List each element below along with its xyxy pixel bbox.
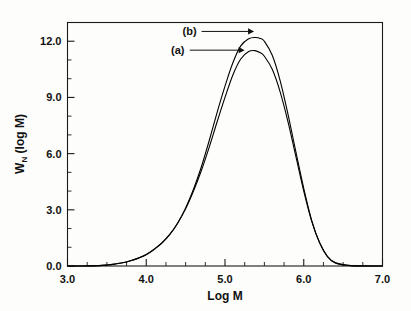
x-tick-label: 5.0 — [217, 273, 232, 285]
chart-figure: 3.04.05.06.07.0 0.03.06.09.012.0 (b)(a) … — [0, 0, 411, 311]
y-tick-label: 3.0 — [46, 204, 61, 216]
chart-canvas: 3.04.05.06.07.0 0.03.06.09.012.0 (b)(a) … — [0, 0, 411, 311]
y-tick-label: 12.0 — [40, 35, 61, 47]
y-axis-title-tail: (log M) — [13, 114, 27, 157]
y-axis-title-main: W — [13, 162, 27, 174]
x-tick-label: 7.0 — [375, 273, 390, 285]
y-axis-title: WN (log M) — [13, 114, 29, 174]
y-tick-label: 6.0 — [46, 148, 61, 160]
x-tick-label: 4.0 — [139, 273, 154, 285]
y-tick-label: 9.0 — [46, 91, 61, 103]
x-tick-label: 6.0 — [296, 273, 311, 285]
x-tick-label: 3.0 — [60, 273, 75, 285]
x-axis-title: Log M — [207, 289, 242, 303]
curve-a-callout-label: (a) — [171, 44, 185, 56]
y-tick-label: 0.0 — [46, 260, 61, 272]
curve-b-callout-label: (b) — [183, 25, 197, 37]
